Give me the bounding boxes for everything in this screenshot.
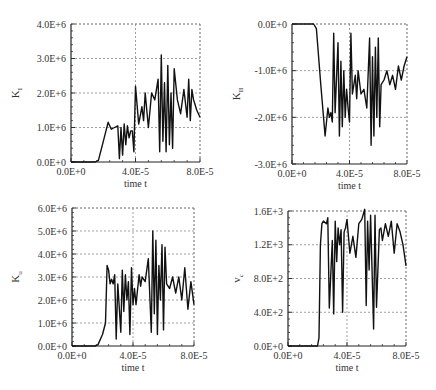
- y-tick-label: 4.0E+2: [254, 307, 283, 318]
- figure: 0.0E+01.0E+62.0E+63.0E+64.0E+60.0E+04.0E…: [0, 0, 436, 390]
- y-tick-label: 1.0E+6: [37, 122, 66, 133]
- chart-panel-KI: 0.0E+01.0E+62.0E+63.0E+64.0E+60.0E+04.0E…: [9, 19, 213, 190]
- x-axis-label: time t: [121, 362, 144, 373]
- chart-panel-KII: -3.0E+6-2.0E+6-1.0E+60.0E+00.0E+04.0E-58…: [230, 19, 420, 192]
- x-axis-label: time t: [335, 362, 358, 373]
- y-tick-label: 6.0E+6: [38, 203, 67, 214]
- y-tick-label: 1.0E+6: [38, 318, 67, 329]
- x-axis-label: time t: [338, 180, 361, 191]
- y-tick-label: 2.0E+6: [38, 295, 67, 306]
- data-series-KII: [292, 24, 407, 145]
- x-tick-label: 4.0E-5: [334, 350, 361, 361]
- y-tick-label: 2.0E+6: [37, 88, 66, 99]
- x-tick-label: 4.0E-5: [120, 350, 147, 361]
- chart-panel-vc: 0.0E+04.0E+28.0E+21.2E+31.6E+30.0E+04.0E…: [230, 206, 419, 374]
- y-tick-label: 1.2E+3: [254, 239, 283, 250]
- y-axis-label: Ku: [9, 271, 24, 283]
- x-tick-label: 8.0E-5: [181, 350, 208, 361]
- x-tick-label: 4.0E-5: [122, 166, 149, 177]
- x-axis-label: time t: [124, 178, 147, 189]
- x-tick-label: 8.0E-5: [393, 350, 420, 361]
- y-tick-label: 4.0E+6: [38, 249, 67, 260]
- x-tick-label: 0.0E+0: [273, 350, 302, 361]
- y-tick-label: 4.0E+6: [37, 19, 66, 30]
- chart-panel-Ku: 0.0E+01.0E+62.0E+63.0E+64.0E+65.0E+66.0E…: [9, 203, 207, 374]
- y-tick-label: 0.0E+0: [258, 19, 287, 30]
- y-axis-label: KI: [9, 87, 24, 98]
- x-tick-label: 0.0E+0: [56, 166, 85, 177]
- x-tick-label: 8.0E-5: [394, 168, 421, 179]
- x-tick-label: 0.0E+0: [277, 168, 306, 179]
- x-tick-label: 8.0E-5: [187, 166, 214, 177]
- x-tick-label: 0.0E+0: [57, 350, 86, 361]
- y-tick-label: 3.0E+6: [37, 53, 66, 64]
- y-tick-label: -1.0E+6: [254, 65, 287, 76]
- y-tick-label: -2.0E+6: [254, 112, 287, 123]
- y-tick-label: 3.0E+6: [38, 272, 67, 283]
- data-series-vc: [288, 209, 406, 346]
- y-tick-label: 1.6E+3: [254, 206, 283, 217]
- x-tick-label: 4.0E-5: [336, 168, 363, 179]
- y-axis-label: vc: [230, 274, 245, 283]
- y-axis-label: KII: [230, 87, 245, 100]
- y-tick-label: 8.0E+2: [254, 273, 283, 284]
- y-tick-label: 5.0E+6: [38, 226, 67, 237]
